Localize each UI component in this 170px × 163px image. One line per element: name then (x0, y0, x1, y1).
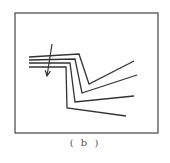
layer-1-line (29, 54, 134, 84)
diagram-frame (15, 13, 158, 133)
fold-layers (29, 54, 137, 116)
figure-caption: ( b ) (0, 137, 170, 148)
